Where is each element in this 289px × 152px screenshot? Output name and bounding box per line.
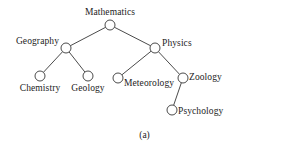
tree-node-chemistry[interactable] <box>35 71 45 81</box>
tree-edge-physics-to-zoology <box>158 52 179 75</box>
tree-edge-zoology-to-psychology <box>174 83 182 106</box>
tree-edge-geography-to-chemistry <box>43 52 62 73</box>
figure-caption: (a) <box>0 130 289 140</box>
tree-node-psychology[interactable] <box>167 105 177 115</box>
tree-node-label-mathematics: Mathematics <box>85 7 135 18</box>
tree-node-label-geology: Geology <box>71 83 104 94</box>
tree-node-meteorology[interactable] <box>113 73 123 83</box>
node-layer <box>35 20 188 115</box>
tree-node-label-psychology: Psychology <box>178 106 223 117</box>
tree-node-geology[interactable] <box>83 71 93 81</box>
tree-diagram-figure: MathematicsGeographyPhysicsChemistryGeol… <box>0 0 289 152</box>
tree-edge-mathematics-to-geography <box>70 27 105 45</box>
edge-layer <box>43 27 181 105</box>
tree-node-label-meteorology: Meteorology <box>124 78 174 89</box>
tree-node-label-geography: Geography <box>16 36 59 47</box>
tree-edge-geography-to-geology <box>69 52 85 72</box>
tree-node-geography[interactable] <box>61 43 71 53</box>
tree-node-mathematics[interactable] <box>105 20 115 30</box>
tree-node-zoology[interactable] <box>178 73 188 83</box>
tree-node-label-physics: Physics <box>162 38 192 49</box>
tree-node-label-zoology: Zoology <box>189 72 222 83</box>
tree-node-physics[interactable] <box>150 43 160 53</box>
tree-edge-physics-to-meteorology <box>122 51 151 75</box>
tree-node-label-chemistry: Chemistry <box>20 83 60 94</box>
tree-edge-mathematics-to-physics <box>114 27 150 45</box>
